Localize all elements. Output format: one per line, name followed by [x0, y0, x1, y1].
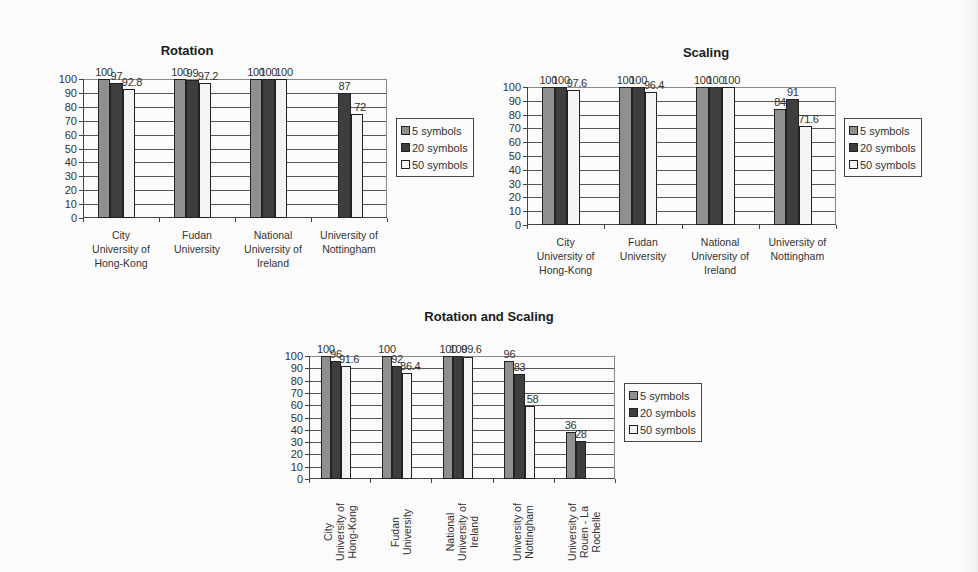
plot-area	[527, 87, 836, 225]
data-label: 58	[527, 393, 539, 405]
category-label-line: Hong-Kong	[521, 263, 611, 277]
bar-50-symbols	[799, 126, 812, 225]
bar-5-symbols	[382, 356, 392, 479]
bar-50-symbols	[645, 92, 658, 225]
y-tick-label: 40	[497, 164, 521, 176]
x-tick-mark	[235, 218, 236, 222]
y-tick-mark	[79, 107, 83, 108]
legend-item: 50 symbols	[401, 156, 468, 173]
x-tick-mark	[159, 218, 160, 222]
data-label: 100	[275, 66, 292, 78]
category-label-line: University of	[334, 487, 346, 572]
bar-20-symbols	[262, 79, 275, 218]
x-tick-mark	[604, 225, 605, 229]
y-tick-mark	[305, 418, 309, 419]
legend-item: 5 symbols	[849, 122, 916, 139]
y-tick-mark	[79, 204, 83, 205]
y-tick-label: 60	[497, 136, 521, 148]
category-label-line: National	[444, 487, 456, 572]
legend-swatch-icon	[849, 143, 858, 152]
bar-50-symbols	[402, 373, 412, 479]
legend-swatch-icon	[401, 160, 410, 169]
y-tick-label: 50	[279, 412, 303, 424]
category-label-line: University of	[304, 228, 394, 242]
y-tick-label: 0	[279, 473, 303, 485]
bar-20-symbols	[786, 99, 799, 225]
x-tick-mark	[309, 479, 310, 483]
y-tick-label: 60	[279, 399, 303, 411]
data-label: 71.6	[798, 113, 818, 125]
y-axis	[309, 356, 310, 479]
legend-swatch-icon	[629, 408, 638, 417]
x-tick-mark	[387, 218, 388, 222]
category-label-line: Fudan	[389, 487, 401, 572]
y-tick-mark	[523, 211, 527, 212]
data-label: 96.4	[644, 79, 664, 91]
y-tick-label: 50	[53, 143, 77, 155]
bar-20-symbols	[186, 80, 199, 218]
x-tick-mark	[311, 218, 312, 222]
y-axis	[527, 87, 528, 225]
y-tick-label: 90	[53, 87, 77, 99]
legend-label: 50 symbols	[412, 159, 468, 171]
legend-label: 20 symbols	[860, 142, 916, 154]
category-label-line: University of	[511, 487, 523, 572]
category-label-line: City	[322, 487, 334, 572]
x-tick-mark	[836, 225, 837, 229]
legend-item: 20 symbols	[401, 139, 468, 156]
y-tick-label: 20	[497, 191, 521, 203]
y-tick-mark	[523, 184, 527, 185]
bar-5-symbols	[443, 356, 453, 479]
y-tick-label: 80	[497, 109, 521, 121]
x-tick-mark	[527, 225, 528, 229]
legend-label: 50 symbols	[860, 159, 916, 171]
bar-50-symbols	[341, 366, 351, 479]
category-label-line: Ireland	[468, 487, 480, 572]
bar-50-symbols	[351, 114, 364, 218]
y-tick-label: 20	[279, 448, 303, 460]
chart-title: Rotation and Scaling	[424, 309, 553, 324]
y-axis	[83, 79, 84, 218]
legend-item: 20 symbols	[629, 404, 696, 421]
bar-20-symbols	[392, 366, 402, 479]
data-label: 92.8	[122, 76, 142, 88]
category-label: University ofRouen - LaRochelle	[566, 487, 602, 572]
data-label: 72	[354, 101, 366, 113]
legend-label: 50 symbols	[640, 424, 696, 436]
y-tick-mark	[79, 190, 83, 191]
legend-label: 5 symbols	[412, 125, 462, 137]
bar-50-symbols	[722, 87, 735, 225]
category-label-line: Rouen - La	[578, 487, 590, 572]
legend-swatch-icon	[849, 160, 858, 169]
legend-item: 5 symbols	[629, 387, 696, 404]
bar-5-symbols	[321, 356, 331, 479]
x-tick-mark	[554, 479, 555, 483]
y-tick-mark	[305, 442, 309, 443]
y-tick-mark	[523, 156, 527, 157]
y-tick-mark	[79, 149, 83, 150]
y-tick-mark	[305, 467, 309, 468]
data-label: 97	[111, 70, 123, 82]
legend-swatch-icon	[629, 391, 638, 400]
y-tick-mark	[305, 356, 309, 357]
y-tick-mark	[523, 128, 527, 129]
bar-20-symbols	[331, 361, 341, 479]
bar-20-symbols	[632, 87, 645, 225]
x-tick-mark	[370, 479, 371, 483]
bar-20-symbols	[555, 87, 568, 225]
category-label-line: Nottingham	[752, 249, 842, 263]
scan-edge-shadow	[964, 0, 978, 572]
legend-swatch-icon	[401, 126, 410, 135]
bar-20-symbols	[514, 374, 524, 479]
x-tick-mark	[83, 218, 84, 222]
y-tick-mark	[523, 197, 527, 198]
x-tick-mark	[682, 225, 683, 229]
legend-swatch-icon	[849, 126, 858, 135]
category-label-line: Hong-Kong	[346, 487, 358, 572]
legend: 5 symbols20 symbols50 symbols	[396, 118, 474, 177]
y-tick-label: 0	[53, 212, 77, 224]
bar-20-symbols	[576, 441, 586, 479]
plot-area	[83, 79, 387, 218]
bar-5-symbols	[174, 79, 187, 218]
data-label: 100	[723, 74, 740, 86]
